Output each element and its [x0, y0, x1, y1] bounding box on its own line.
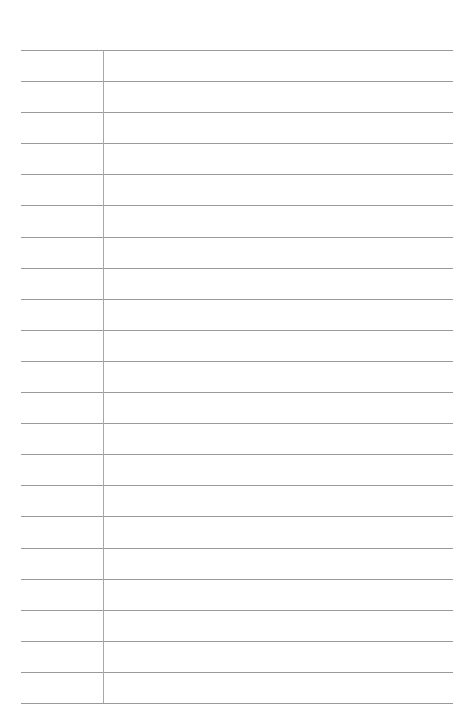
ruled-line — [21, 672, 453, 673]
ruled-line — [21, 610, 453, 611]
ruled-line — [21, 112, 453, 113]
ruled-line — [21, 205, 453, 206]
margin-line — [103, 50, 104, 703]
ruled-line — [21, 143, 453, 144]
ruled-line — [21, 703, 453, 704]
ruled-line — [21, 174, 453, 175]
ruled-line — [21, 454, 453, 455]
ruled-line — [21, 641, 453, 642]
ruled-line — [21, 548, 453, 549]
ruled-line — [21, 579, 453, 580]
ruled-line — [21, 361, 453, 362]
ruled-line — [21, 81, 453, 82]
ruled-line — [21, 423, 453, 424]
ruled-line — [21, 268, 453, 269]
ruled-line — [21, 485, 453, 486]
ruled-line — [21, 392, 453, 393]
ruled-line — [21, 237, 453, 238]
ruled-line — [21, 516, 453, 517]
ruled-line — [21, 299, 453, 300]
ruled-line — [21, 330, 453, 331]
ruled-line — [21, 50, 453, 51]
